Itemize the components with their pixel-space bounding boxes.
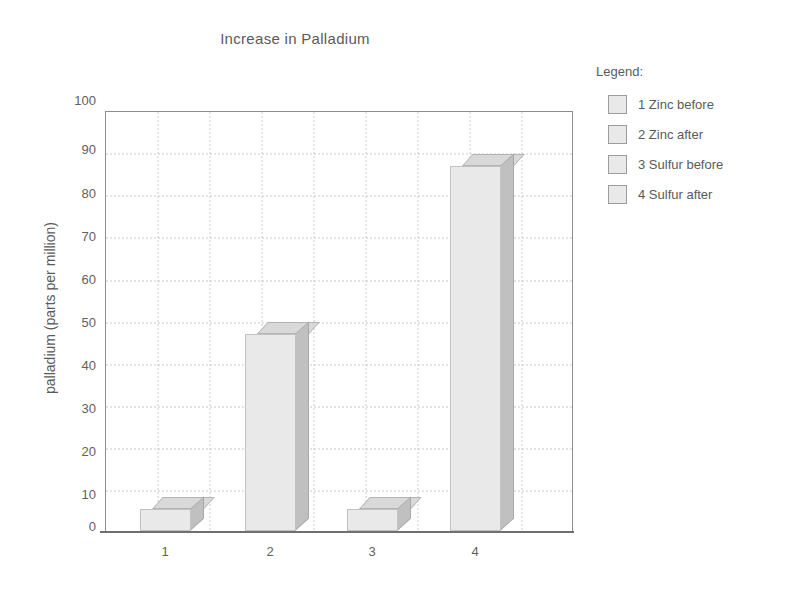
y-tick-label-40: 40 (62, 359, 96, 372)
y-tick-label-80: 80 (62, 187, 96, 200)
legend-item-1[interactable]: 1 Zinc before (596, 89, 791, 119)
legend-item-3[interactable]: 3 Sulfur before (596, 149, 791, 179)
legend-item-label: 4 Sulfur after (638, 187, 712, 202)
y-tick-label-50: 50 (62, 316, 96, 329)
bar-front-face (140, 509, 191, 531)
y-tick-label-90: 90 (62, 143, 96, 156)
legend-swatch-icon (608, 155, 627, 174)
bar-category-1[interactable] (140, 497, 204, 541)
y-tick-label-20: 20 (62, 445, 96, 458)
x-tick-label-3: 3 (342, 544, 402, 559)
legend-item-4[interactable]: 4 Sulfur after (596, 179, 791, 209)
bar-top-face (152, 497, 215, 509)
y-axis-title: palladium (parts per million) (42, 158, 58, 458)
chart-title: Increase in Palladium (0, 30, 590, 47)
bar-front-face (245, 334, 296, 531)
legend-swatch-icon (608, 95, 627, 114)
x-tick-label-4: 4 (445, 544, 505, 559)
bar-side-face (500, 153, 514, 531)
bar-front-face (450, 166, 501, 531)
y-tick-label-60: 60 (62, 273, 96, 286)
legend: Legend: 1 Zinc before 2 Zinc after 3 Sul… (596, 64, 791, 209)
legend-swatch-icon (608, 185, 627, 204)
legend-item-label: 1 Zinc before (638, 97, 714, 112)
x-tick-label-2: 2 (240, 544, 300, 559)
legend-swatch-icon (608, 125, 627, 144)
bar-top-face (257, 322, 320, 334)
y-tick-label-70: 70 (62, 230, 96, 243)
bar-category-2[interactable] (245, 322, 309, 541)
y-tick-label-30: 30 (62, 402, 96, 415)
legend-title: Legend: (596, 64, 791, 79)
bar-side-face (295, 321, 309, 531)
bar-top-face (462, 154, 525, 166)
bar-category-4[interactable] (450, 154, 514, 541)
legend-item-label: 3 Sulfur before (638, 157, 723, 172)
bar-category-3[interactable] (347, 497, 411, 541)
y-tick-label-100: 100 (62, 94, 96, 107)
bar-front-face (347, 509, 398, 531)
bar-top-face (359, 497, 422, 509)
y-tick-label-10: 10 (62, 488, 96, 501)
y-tick-label-0: 0 (62, 520, 96, 533)
legend-item-label: 2 Zinc after (638, 127, 703, 142)
x-tick-label-1: 1 (135, 544, 195, 559)
legend-item-2[interactable]: 2 Zinc after (596, 119, 791, 149)
